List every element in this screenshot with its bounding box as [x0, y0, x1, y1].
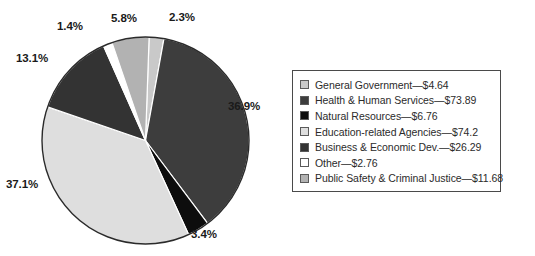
- legend-item-label: General Government—$4.64: [315, 79, 449, 91]
- legend-item[interactable]: General Government—$4.64: [300, 77, 500, 93]
- pie-chart-graphic: [40, 35, 251, 246]
- pie-chart-figure: 1.4% 5.8% 2.3% 13.1% 36.9% 37.1% 3.4% Ge…: [0, 0, 535, 256]
- legend: General Government—$4.64Health & Human S…: [292, 70, 501, 192]
- legend-item-label: Public Safety & Criminal Justice—$11.68: [315, 172, 503, 184]
- legend-swatch-icon: [300, 111, 309, 120]
- legend-item-label: Natural Resources—$6.76: [315, 110, 438, 122]
- pie-label-other: 1.4%: [57, 20, 83, 32]
- legend-item[interactable]: Other—$2.76: [300, 155, 500, 171]
- pie-label-education-agencies: 37.1%: [6, 178, 38, 190]
- legend-item[interactable]: Natural Resources—$6.76: [300, 108, 500, 124]
- legend-item-label: Other—$2.76: [315, 157, 378, 169]
- legend-item[interactable]: Public Safety & Criminal Justice—$11.68: [300, 171, 500, 187]
- legend-swatch-icon: [300, 158, 309, 167]
- pie-label-public-safety: 5.8%: [111, 12, 137, 24]
- legend-item-label: Business & Economic Dev.—$26.29: [315, 141, 481, 153]
- pie-svg: [40, 35, 251, 246]
- pie-label-natural-resources: 3.4%: [191, 228, 217, 240]
- legend-item[interactable]: Business & Economic Dev.—$26.29: [300, 139, 500, 155]
- pie-label-business-economic-dev: 13.1%: [16, 52, 48, 64]
- legend-item[interactable]: Health & Human Services—$73.89: [300, 93, 500, 109]
- pie-slice-group: [42, 37, 249, 244]
- legend-item-label: Health & Human Services—$73.89: [315, 94, 476, 106]
- legend-item[interactable]: Education-related Agencies—$74.2: [300, 124, 500, 140]
- pie-label-health-human-services: 36.9%: [228, 100, 260, 112]
- legend-item-label: Education-related Agencies—$74.2: [315, 126, 478, 138]
- legend-swatch-icon: [300, 96, 309, 105]
- pie-label-general-government: 2.3%: [169, 11, 195, 23]
- legend-swatch-icon: [300, 80, 309, 89]
- legend-swatch-icon: [300, 127, 309, 136]
- legend-swatch-icon: [300, 174, 309, 183]
- legend-swatch-icon: [300, 143, 309, 152]
